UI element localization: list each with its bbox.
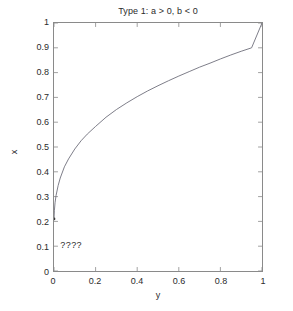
x-tick-label: 0.4 [131,276,144,286]
x-tick-label: 0.2 [89,276,102,286]
y-tick-label: 0.6 [36,117,49,127]
y-tick-label: 0 [44,267,49,277]
y-tick-label: 0.9 [36,42,49,52]
x-tick-label: 0.8 [215,276,228,286]
y-tick-label: 0.5 [36,142,49,152]
curve-svg [54,23,262,271]
y-tick-label: 1 [44,17,49,27]
chart-title: Type 1: a > 0, b < 0 [53,6,263,16]
x-tick-label: 1 [260,276,265,286]
x-axis-tick-labels: 00.20.40.60.81 [53,276,263,290]
y-tick-label: 0.2 [36,217,49,227]
y-tick-label: 0.8 [36,67,49,77]
plot-area [53,22,263,272]
x-tick-label: 0.6 [173,276,186,286]
x-tick-label: 0 [50,276,55,286]
figure-canvas: Type 1: a > 0, b < 0 x y 00.10.20.30.40.… [0,0,293,311]
data-curve [54,23,262,219]
y-axis-tick-labels: 00.10.20.30.40.50.60.70.80.91 [14,22,49,272]
curve-start-marker [54,218,55,221]
question-marks-annotation: ???? [60,240,82,250]
y-tick-label: 0.1 [36,242,49,252]
x-axis-label: y [53,290,263,300]
y-tick-label: 0.4 [36,167,49,177]
axis-tick-marks [54,23,262,271]
y-tick-label: 0.3 [36,192,49,202]
y-tick-label: 0.7 [36,92,49,102]
